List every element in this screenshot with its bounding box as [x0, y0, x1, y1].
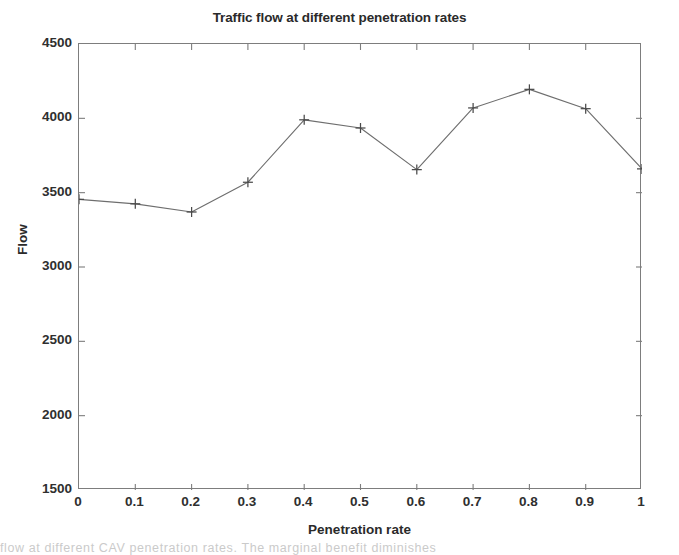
x-tick-label: 0.8 — [505, 495, 551, 509]
data-point-marker — [187, 207, 197, 217]
x-axis-label: Penetration rate — [78, 522, 641, 537]
x-tick-label: 0.3 — [224, 495, 270, 509]
x-tick-label: 0.1 — [111, 495, 157, 509]
x-tick-label: 0.2 — [168, 495, 214, 509]
plot-area — [78, 43, 641, 489]
data-point-marker — [130, 199, 140, 209]
y-tick-label: 4500 — [16, 36, 72, 50]
x-tick-label: 0.5 — [337, 495, 383, 509]
x-tick-label: 0 — [55, 495, 101, 509]
x-tick-label: 0.7 — [449, 495, 495, 509]
figure-canvas: Traffic flow at different penetration ra… — [0, 0, 679, 555]
x-tick-label: 0.4 — [280, 495, 326, 509]
y-tick-label: 1500 — [16, 482, 72, 496]
data-point-marker — [79, 194, 84, 204]
data-point-marker — [524, 84, 534, 94]
y-tick-label: 4000 — [16, 111, 72, 125]
x-tick-label: 1 — [618, 495, 664, 509]
y-axis-label: Flow — [15, 200, 30, 280]
data-point-marker — [356, 123, 366, 133]
series-line-flow — [79, 89, 642, 212]
x-axis-tick-labels: 00.10.20.30.40.50.60.70.80.91 — [78, 495, 641, 517]
page-caption-text: flow at different CAV penetration rates.… — [0, 541, 679, 555]
data-series-plot — [79, 44, 642, 490]
y-tick-label: 2000 — [16, 408, 72, 422]
x-tick-label: 0.6 — [393, 495, 439, 509]
y-tick-label: 3500 — [16, 185, 72, 199]
chart-title: Traffic flow at different penetration ra… — [0, 10, 679, 25]
y-tick-label: 2500 — [16, 334, 72, 348]
x-tick-label: 0.9 — [562, 495, 608, 509]
